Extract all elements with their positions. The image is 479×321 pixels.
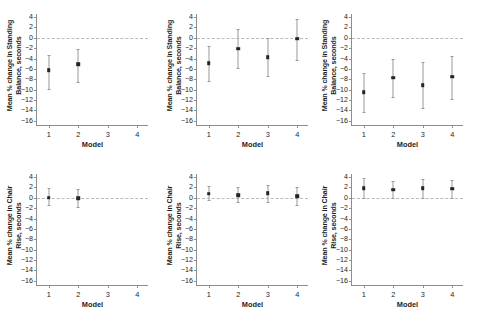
y-tick-label: −2	[185, 204, 193, 212]
y-tick-label: −8	[340, 75, 348, 83]
y-tick-mark	[194, 229, 197, 230]
x-tick-mark	[108, 285, 109, 288]
error-bar-cap-lower	[266, 76, 269, 77]
y-tick-mark	[34, 177, 37, 178]
error-bar-cap-upper	[296, 19, 299, 20]
x-tick-label: 4	[450, 130, 454, 139]
y-tick-label: 4	[29, 173, 33, 181]
error-bar-cap-lower	[237, 202, 240, 203]
y-tick-label: 4	[189, 173, 193, 181]
data-point-marker	[450, 187, 454, 191]
x-tick-mark	[452, 125, 453, 128]
y-tick-label: −10	[21, 86, 33, 94]
y-tick-mark	[194, 17, 197, 18]
error-bar-cap-lower	[296, 205, 299, 206]
y-tick-label: −12	[336, 96, 348, 104]
y-tick-label: −14	[21, 106, 33, 114]
error-bar-cap-upper	[207, 186, 210, 187]
panel-bottom-right: Mean % change in Chair Rise, seconds 420…	[315, 160, 479, 321]
x-tick-mark	[209, 285, 210, 288]
x-tick-label: 3	[106, 130, 110, 139]
data-point-marker	[362, 90, 366, 94]
data-point-marker	[76, 62, 80, 66]
y-tick-label: −12	[336, 256, 348, 264]
y-tick-label: −10	[181, 86, 193, 94]
x-tick-label: 4	[135, 290, 139, 299]
y-tick-label: −4	[185, 215, 193, 223]
y-tick-mark	[34, 219, 37, 220]
y-tick-mark	[34, 59, 37, 60]
data-point-marker	[207, 192, 211, 196]
data-point-marker	[421, 186, 425, 190]
plot-area: 420−2−4−6−8−10−12−14−161234Model	[351, 174, 463, 286]
y-tick-mark	[349, 17, 352, 18]
error-bar-cap-upper	[77, 189, 80, 190]
y-tick-label: 0	[189, 34, 193, 42]
data-point-marker	[236, 193, 240, 197]
y-tick-label: −8	[185, 235, 193, 243]
error-bar-cap-upper	[362, 73, 365, 74]
x-tick-mark	[364, 285, 365, 288]
y-tick-mark	[349, 260, 352, 261]
error-bar-cap-upper	[266, 38, 269, 39]
y-tick-mark	[194, 239, 197, 240]
y-tick-mark	[349, 100, 352, 101]
data-point-marker	[295, 37, 299, 41]
x-axis-title: Model	[197, 300, 308, 309]
y-tick-label: −16	[21, 117, 33, 125]
y-tick-label: 4	[189, 13, 193, 21]
error-bar-cap-lower	[392, 97, 395, 98]
y-tick-mark	[194, 270, 197, 271]
x-tick-mark	[452, 285, 453, 288]
error-bar-cap-lower	[47, 205, 50, 206]
y-tick-label: 0	[29, 34, 33, 42]
y-tick-mark	[349, 27, 352, 28]
y-tick-mark	[194, 177, 197, 178]
x-tick-mark	[49, 125, 50, 128]
x-tick-mark	[49, 285, 50, 288]
y-tick-mark	[34, 187, 37, 188]
plot-area: 420−2−4−6−8−10−12−14−161234Model	[196, 174, 308, 286]
y-tick-label: −6	[25, 65, 33, 73]
y-tick-mark	[349, 177, 352, 178]
error-bar-cap-upper	[421, 179, 424, 180]
data-point-marker	[421, 83, 425, 87]
plot-area: 420−2−4−6−8−10−12−14−161234Model	[351, 14, 463, 126]
y-tick-label: −2	[25, 204, 33, 212]
error-bar-cap-upper	[392, 59, 395, 60]
multi-panel-forest-plot-figure: Mean % change in Standing Balance, secon…	[0, 0, 479, 321]
plot-area: 420−2−4−6−8−10−12−14−161234Model	[36, 174, 148, 286]
y-tick-mark	[34, 208, 37, 209]
x-tick-mark	[423, 125, 424, 128]
error-bar-cap-upper	[296, 187, 299, 188]
y-tick-mark	[194, 250, 197, 251]
x-tick-mark	[78, 125, 79, 128]
data-point-marker	[47, 68, 51, 72]
error-bar-cap-upper	[237, 29, 240, 30]
zero-reference-line	[37, 38, 148, 39]
x-tick-mark	[238, 125, 239, 128]
error-bar-cap-upper	[237, 187, 240, 188]
error-bar-cap-lower	[362, 198, 365, 199]
y-tick-mark	[194, 281, 197, 282]
y-tick-label: −16	[21, 277, 33, 285]
y-tick-label: −6	[25, 225, 33, 233]
y-tick-mark	[194, 219, 197, 220]
y-tick-mark	[349, 208, 352, 209]
y-tick-label: −16	[181, 117, 193, 125]
y-tick-mark	[349, 90, 352, 91]
y-tick-label: −10	[336, 246, 348, 254]
y-tick-label: 4	[344, 13, 348, 21]
y-tick-mark	[34, 48, 37, 49]
x-tick-label: 2	[236, 290, 240, 299]
y-tick-mark	[34, 100, 37, 101]
y-tick-label: −2	[340, 204, 348, 212]
error-bar-cap-lower	[296, 60, 299, 61]
data-point-marker	[391, 76, 395, 80]
error-bar-cap-lower	[266, 202, 269, 203]
x-tick-label: 3	[266, 290, 270, 299]
y-tick-mark	[349, 79, 352, 80]
y-tick-mark	[349, 59, 352, 60]
error-bar-cap-lower	[421, 108, 424, 109]
panel-top-left: Mean % change in Standing Balance, secon…	[0, 0, 160, 160]
